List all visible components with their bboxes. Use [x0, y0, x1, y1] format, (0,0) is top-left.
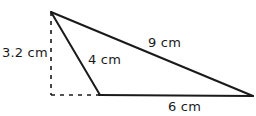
side-4cm-measurement-label: 4 cm [88, 53, 121, 66]
edge-slant-9cm [51, 12, 253, 96]
triangle-diagram: 3.2 cm 4 cm 9 cm 6 cm [0, 0, 256, 116]
side-9cm-measurement-label: 9 cm [148, 36, 181, 49]
edge-base-6cm [99, 95, 253, 96]
base-6cm-measurement-label: 6 cm [168, 100, 201, 113]
height-measurement-label: 3.2 cm [2, 46, 48, 59]
